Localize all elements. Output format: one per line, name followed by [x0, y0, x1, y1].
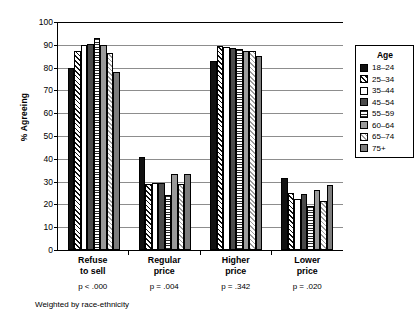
legend-swatch-icon — [360, 121, 368, 129]
legend-item[interactable]: 25–34 — [360, 75, 410, 84]
bar — [113, 72, 120, 250]
legend: Age 18–2425–3435–4445–5455–5960–6465–747… — [355, 45, 414, 158]
legend-label: 75+ — [372, 144, 386, 153]
bar — [327, 185, 334, 250]
bar — [184, 174, 191, 250]
y-tick-label: 100 — [39, 17, 53, 27]
legend-label: 25–34 — [372, 75, 394, 84]
y-tick-label: 30 — [44, 177, 53, 187]
bar-group — [129, 22, 200, 250]
legend-swatch-icon — [360, 144, 368, 152]
y-tick-label: 60 — [44, 108, 53, 118]
x-axis-category-label: Higherprice — [200, 255, 272, 277]
x-axis-category-label: Refuseto sell — [57, 255, 129, 277]
p-value-label: p = .020 — [272, 282, 344, 291]
bar-group — [201, 22, 272, 250]
x-axis-category-label: Regularprice — [129, 255, 201, 277]
bars — [210, 22, 262, 250]
plot-area: 1009080706050403020100 — [57, 22, 343, 251]
legend-label: 60–64 — [372, 121, 394, 130]
legend-label: 35–44 — [372, 86, 394, 95]
legend-item[interactable]: 60–64 — [360, 121, 410, 130]
bar — [256, 56, 263, 250]
y-tick-label: 0 — [48, 245, 53, 255]
bars — [68, 22, 120, 250]
legend-swatch-icon — [360, 64, 368, 72]
legend-item[interactable]: 45–54 — [360, 98, 410, 107]
legend-swatch-icon — [360, 75, 368, 83]
y-tick-label: 40 — [44, 154, 53, 164]
legend-items: 18–2425–3435–4445–5455–5960–6465–7475+ — [360, 63, 410, 153]
x-axis-labels: Refuseto sellRegularpriceHigherpriceLowe… — [57, 255, 343, 277]
p-value-label: p < .000 — [57, 282, 129, 291]
y-tick-label: 50 — [44, 131, 53, 141]
legend-swatch-icon — [360, 87, 368, 95]
bar-chart: % Agreeing 1009080706050403020100 Refuse… — [0, 0, 420, 319]
legend-swatch-icon — [360, 98, 368, 106]
legend-label: 18–24 — [372, 63, 394, 72]
p-value-annotations: p < .000p = .004p = .342p = .020 — [57, 282, 343, 291]
legend-item[interactable]: 55–59 — [360, 109, 410, 118]
y-tick-label: 20 — [44, 199, 53, 209]
y-tick-label: 90 — [44, 40, 53, 50]
legend-item[interactable]: 65–74 — [360, 132, 410, 141]
legend-label: 45–54 — [372, 98, 394, 107]
legend-title: Age — [360, 50, 410, 60]
legend-label: 55–59 — [372, 109, 394, 118]
bars — [281, 22, 333, 250]
legend-item[interactable]: 18–24 — [360, 63, 410, 72]
y-tick-label: 70 — [44, 85, 53, 95]
bar-group — [58, 22, 129, 250]
y-tick-label: 80 — [44, 63, 53, 73]
p-value-label: p = .004 — [129, 282, 201, 291]
legend-label: 65–74 — [372, 132, 394, 141]
legend-swatch-icon — [360, 133, 368, 141]
chart-footnote: Weighted by race-ethnicity — [35, 300, 129, 309]
p-value-label: p = .342 — [200, 282, 272, 291]
legend-item[interactable]: 75+ — [360, 144, 410, 153]
legend-item[interactable]: 35–44 — [360, 86, 410, 95]
legend-swatch-icon — [360, 110, 368, 118]
y-axis-label: % Agreeing — [19, 77, 29, 157]
bar-groups — [58, 22, 343, 250]
y-tick-mark — [54, 250, 58, 251]
bars — [139, 22, 191, 250]
x-axis-category-label: Lowerprice — [272, 255, 344, 277]
y-tick-label: 10 — [44, 222, 53, 232]
bar-group — [272, 22, 343, 250]
